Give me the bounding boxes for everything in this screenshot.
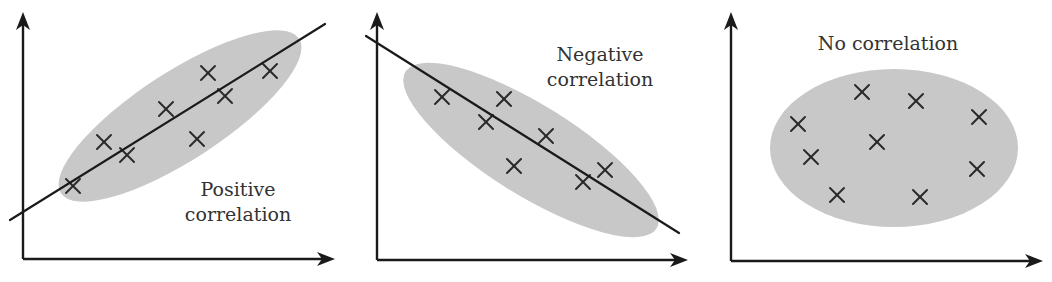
panel-positive-correlation: Positivecorrelation [10, 2, 335, 266]
line-of-best-fit [366, 36, 679, 233]
correlation-diagram: Positivecorrelation Negativecorrelation … [0, 0, 1052, 282]
panel-label: Positive [201, 178, 276, 200]
line-of-best-fit [10, 24, 325, 220]
panel-negative-correlation: Negativecorrelation [366, 12, 688, 267]
panel-label: No correlation [818, 32, 958, 54]
panel-no-correlation: No correlation [724, 12, 1043, 268]
data-cloud-ellipse [770, 69, 1018, 227]
panel-label: correlation [185, 203, 291, 225]
panel-label: correlation [547, 68, 653, 90]
panel-label: Negative [556, 43, 643, 65]
data-cloud-ellipse [37, 2, 323, 230]
